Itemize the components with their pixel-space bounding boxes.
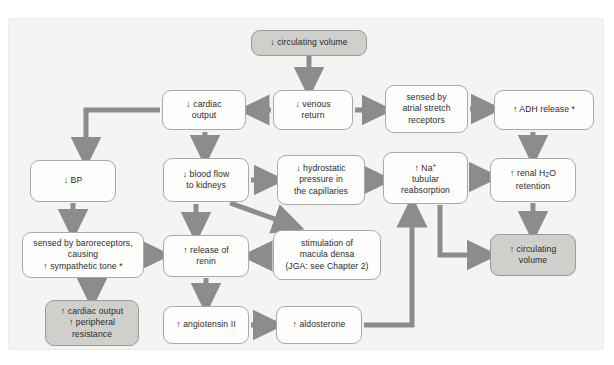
node-renal_h2o: ↑ renal H2Oretention: [490, 158, 576, 202]
node-cardiac_out_up: ↑ cardiac output↑ peripheralresistance: [45, 300, 139, 346]
node-label-cardiac_out_down: ↓ cardiacoutput: [166, 99, 242, 121]
node-label-angiotensin: ↑ angiotensin II: [167, 319, 245, 330]
node-hydrostatic: ↓ hydrostaticpressure inthe capillaries: [277, 155, 365, 205]
node-label-circ_up: ↑ circulatingvolume: [494, 244, 572, 266]
node-label-blood_flow: ↓ blood flowto kidneys: [167, 169, 245, 191]
node-label-renin: ↑ release ofrenin: [167, 245, 245, 267]
node-atrial_stretch: sensed byatrial stretchreceptors: [385, 85, 468, 133]
node-blood_flow: ↓ blood flowto kidneys: [163, 158, 249, 202]
node-label-macula_densa: stimulation ofmacula densa(JGA: see Chap…: [277, 238, 377, 272]
edge-na-to-circup: [440, 205, 482, 255]
node-cardiac_out_down: ↓ cardiacoutput: [162, 90, 246, 130]
node-label-baroreceptors: sensed by baroreceptors,causing↑ sympath…: [26, 238, 140, 272]
node-circ_up: ↑ circulatingvolume: [490, 234, 576, 276]
node-label-venous_return: ↓ venousreturn: [277, 99, 349, 121]
node-label-aldosterone: ↑ aldosterone: [280, 319, 358, 330]
node-label-adh_release: ↑ ADH release *: [498, 104, 590, 115]
node-adh_release: ↑ ADH release *: [494, 90, 594, 130]
node-na_reabsorb: ↑ Na+tubularreabsorption: [383, 152, 468, 204]
node-angiotensin: ↑ angiotensin II: [163, 306, 249, 344]
node-venous_return: ↓ venousreturn: [273, 90, 353, 130]
edge-cardiac-to-bp: [86, 110, 160, 152]
flowchart-figure: ↓ circulating volume↓ cardiacoutput↓ ven…: [0, 0, 614, 365]
node-label-atrial_stretch: sensed byatrial stretchreceptors: [389, 92, 464, 126]
node-renin: ↑ release ofrenin: [163, 235, 249, 277]
node-macula_densa: stimulation ofmacula densa(JGA: see Chap…: [273, 230, 381, 280]
node-label-circ_down: ↓ circulating volume: [255, 37, 363, 48]
node-circ_down: ↓ circulating volume: [251, 30, 367, 56]
node-baroreceptors: sensed by baroreceptors,causing↑ sympath…: [22, 232, 144, 278]
node-bp_down: ↓ BP: [30, 160, 116, 202]
node-aldosterone: ↑ aldosterone: [276, 306, 362, 344]
node-label-hydrostatic: ↓ hydrostaticpressure inthe capillaries: [281, 163, 361, 197]
node-label-renal_h2o: ↑ renal H2Oretention: [494, 168, 572, 192]
node-label-bp_down: ↓ BP: [34, 175, 112, 186]
edge-bloodflow-to-macula: [230, 203, 289, 224]
node-label-na_reabsorb: ↑ Na+tubularreabsorption: [387, 160, 464, 196]
node-label-cardiac_out_up: ↑ cardiac output↑ peripheralresistance: [49, 306, 135, 340]
